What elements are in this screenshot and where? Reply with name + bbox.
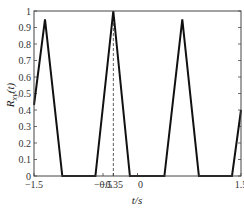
y-tick-label: 0.7 bbox=[19, 55, 32, 66]
x-tick-label: 1.5 bbox=[235, 179, 244, 190]
x-tick-label: −1.5 bbox=[25, 179, 43, 190]
y-axis-ticks: 00.10.20.30.40.50.60.70.80.91 bbox=[19, 6, 242, 182]
data-series-line bbox=[34, 11, 241, 176]
y-tick-label: 0.6 bbox=[19, 72, 32, 83]
plot-frame bbox=[34, 11, 241, 176]
y-tick-label: 0.1 bbox=[19, 154, 32, 165]
y-tick-label: 0.8 bbox=[19, 39, 32, 50]
y-tick-label: 0.5 bbox=[19, 88, 32, 99]
x-tick-label: −0.35 bbox=[100, 179, 123, 190]
y-tick-label: 0.2 bbox=[19, 138, 32, 149]
x-tick-label: 0 bbox=[138, 179, 143, 190]
x-axis-label: t/s bbox=[132, 194, 142, 206]
y-tick-label: 0.3 bbox=[19, 121, 32, 132]
y-axis-label: Rxy(t) bbox=[4, 83, 19, 109]
correlation-chart: 00.10.20.30.40.50.60.70.80.91 −1.5−0.5−0… bbox=[0, 0, 244, 209]
y-tick-label: 1 bbox=[26, 6, 31, 17]
y-tick-label: 0.4 bbox=[19, 105, 32, 116]
y-tick-label: 0.9 bbox=[19, 22, 32, 33]
